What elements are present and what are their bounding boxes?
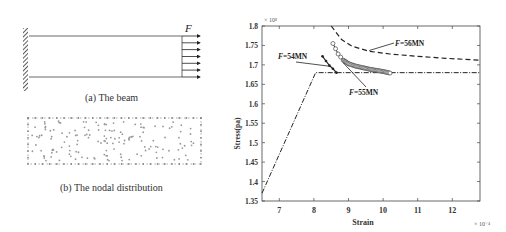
force-label: F [185,22,192,34]
y-tick-label: 1.8 [249,22,259,31]
annotation-f54: F=54MN [278,52,308,61]
y-tick-label: 1.75 [245,41,258,50]
nodal-figure: (b) The nodal distribution [0,112,230,232]
y-tick-label: 1.45 [245,158,258,167]
x-tick-label: 9 [347,206,351,215]
stress-strain-chart: 7891011121.351.41.451.51.551.61.651.71.7… [230,0,506,232]
y-tick-label: 1.7 [249,61,259,70]
y-tick-label: 1.55 [245,119,258,128]
x-tick-label: 11 [414,206,422,215]
x-tick-label: 8 [312,206,316,215]
force-arrows-icon [182,36,200,77]
y-tick-label: 1.35 [245,197,258,206]
y-multiplier: × 10⁸ [264,17,277,23]
y-tick-label: 1.4 [249,178,259,187]
x-tick-label: 10 [379,206,387,215]
fixed-support-icon [23,28,28,91]
nodal-caption: (b) The nodal distribution [60,182,163,193]
y-tick-label: 1.65 [245,80,258,89]
x-tick-label: 7 [277,206,281,215]
x-multiplier: × 10⁻⁴ [474,221,490,227]
beam-figure: F (a) The beam [0,0,230,110]
y-tick-label: 1.6 [249,100,259,109]
beam-caption: (a) The beam [85,92,138,103]
y-axis-label: Stress(pa) [233,117,242,149]
annotation-f56: F=56MN [395,39,425,48]
y-tick-label: 1.5 [249,139,259,148]
annotation-f55: F=55MN [349,88,379,97]
chart-plot: 7891011121.351.41.451.51.551.61.651.71.7… [230,0,506,232]
nodal-distribution-diagram [0,112,230,172]
x-tick-label: 12 [448,206,456,215]
x-axis-label: Strain [352,218,374,227]
